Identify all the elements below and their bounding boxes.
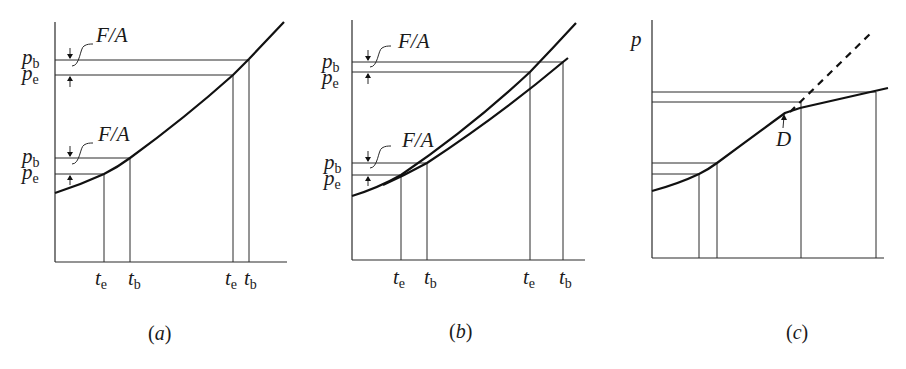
leader-line: [370, 146, 391, 168]
panel-c: D p (c): [629, 20, 888, 344]
panel-a: F/A F/A pb pe pb pe te tb te tb (a): [20, 22, 287, 345]
figure: F/A F/A pb pe pb pe te tb te tb (a): [0, 0, 906, 369]
y-axis-label: p: [629, 27, 642, 51]
tb-label: tb: [244, 266, 257, 292]
arrowhead-icon: [67, 54, 73, 59]
panel-b: F/A F/A pb pe pb pe te tb te tb (b): [320, 20, 585, 343]
caption-b: (b): [449, 320, 472, 343]
arrowhead-icon: [67, 76, 73, 81]
pressure-curve-lower: [383, 58, 568, 185]
leader-line: [72, 143, 93, 164]
force-area-label: F/A: [397, 29, 430, 53]
leader-line: [370, 46, 391, 67]
force-area-label: F/A: [97, 122, 130, 146]
arrowhead-icon: [365, 73, 371, 78]
te-label: te: [393, 265, 405, 291]
pressure-curve-upper: [352, 23, 576, 196]
pressure-curve: [55, 22, 284, 193]
force-area-label: F/A: [401, 128, 434, 152]
caption-a: (a): [148, 322, 171, 345]
pressure-curve: [652, 88, 888, 191]
te-label: te: [95, 266, 107, 292]
tb-label: tb: [424, 265, 437, 291]
tb-label: tb: [128, 266, 141, 292]
arrowhead-icon: [365, 157, 371, 162]
force-area-label: F/A: [95, 23, 128, 47]
arrowhead-icon: [365, 176, 371, 181]
leader-line: [72, 44, 93, 66]
te-label: te: [225, 266, 237, 292]
arrowhead-icon: [365, 56, 371, 61]
tb-label: tb: [559, 265, 572, 291]
te-label: te: [523, 265, 535, 291]
arrowhead-icon: [67, 152, 73, 157]
point-d-label: D: [775, 127, 791, 151]
arrowhead-icon: [67, 175, 73, 180]
caption-c: (c): [786, 321, 808, 344]
